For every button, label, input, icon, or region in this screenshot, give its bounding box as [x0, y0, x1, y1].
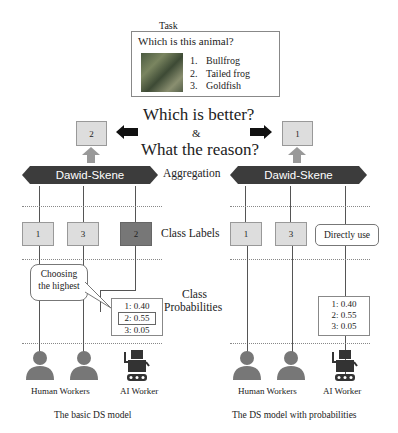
divider — [22, 259, 162, 260]
line — [245, 186, 246, 223]
left-prob-box: 1: 0.40 2: 0.55 3: 0.05 — [111, 298, 163, 336]
line — [39, 246, 40, 356]
left-label-2: 3 — [67, 222, 99, 246]
divider — [230, 259, 370, 260]
task-options: 1.Bullfrog 2.Tailed frog 3.Goldfish — [190, 55, 250, 93]
left-label-ai: 2 — [120, 222, 152, 246]
what-reason-text: What the reason? — [141, 140, 259, 160]
ai-worker-robot-icon — [123, 348, 151, 382]
frog-image — [141, 53, 183, 92]
right-ai-caption: AI Worker — [323, 386, 361, 396]
ai-worker-robot-icon — [331, 348, 359, 382]
line — [83, 246, 84, 356]
option-3: 3.Goldfish — [190, 80, 250, 93]
divider — [230, 343, 370, 344]
right-result-box: 1 — [282, 121, 313, 146]
divider — [22, 206, 162, 207]
right-dawid-skene: Dawid-Skene — [230, 166, 367, 184]
arrow-left-icon — [116, 125, 138, 139]
option-2: 2.Tailed frog — [190, 68, 250, 81]
choosing-highest-bubble: Choosingthe highest — [30, 264, 88, 301]
divider — [230, 206, 370, 207]
option-1: 1.Bullfrog — [190, 55, 250, 68]
class-prob-label-2: Probabilities — [164, 301, 222, 313]
divider — [22, 343, 162, 344]
right-prob-box: 1: 0.40 2: 0.55 3: 0.05 — [318, 296, 370, 336]
left-up-arrow-icon — [82, 147, 100, 163]
left-human-caption: Human Workers — [31, 386, 90, 396]
line — [290, 186, 291, 223]
class-labels-label: Class Labels — [161, 227, 219, 239]
ampersand: & — [192, 127, 201, 139]
aggregation-label: Aggregation — [163, 167, 220, 179]
line — [39, 186, 40, 223]
left-dawid-skene: Dawid-Skene — [22, 166, 158, 184]
line — [83, 186, 84, 223]
human-worker-icon — [69, 350, 99, 380]
class-prob-label-1: Class — [182, 288, 207, 300]
task-label: Task — [159, 20, 178, 31]
human-worker-icon — [232, 350, 262, 380]
right-human-caption: Human Workers — [238, 386, 297, 396]
left-label-1: 1 — [22, 222, 54, 246]
line — [247, 246, 248, 356]
left-ai-caption: AI Worker — [120, 386, 158, 396]
which-better-text: Which is better? — [143, 105, 254, 125]
right-label-1: 1 — [230, 222, 262, 246]
task-box: Which is this animal? 1.Bullfrog 2.Taile… — [131, 31, 280, 97]
left-result-box: 2 — [76, 121, 107, 146]
directly-use-box: Directly use — [315, 224, 379, 246]
human-worker-icon — [25, 350, 55, 380]
line — [135, 186, 136, 223]
human-worker-icon — [276, 350, 306, 380]
right-up-arrow-icon — [288, 147, 306, 163]
line — [292, 246, 293, 356]
line — [135, 246, 136, 291]
right-label-2: 3 — [275, 222, 307, 246]
arrow-right-icon — [250, 125, 272, 139]
highlighted-prob: 2: 0.55 — [118, 312, 156, 325]
left-title: The basic DS model — [54, 410, 131, 420]
task-question: Which is this animal? — [138, 35, 234, 47]
right-title: The DS model with probabilities — [232, 410, 357, 420]
